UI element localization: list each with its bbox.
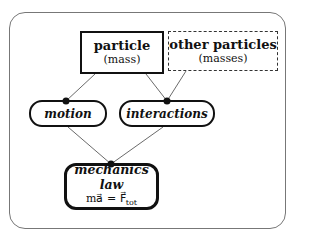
other-particles-node: other particles (masses) [168, 31, 278, 71]
mechanics-law-formula: ma⃗ = F⃗tot [86, 192, 137, 210]
particle-title: particle [94, 38, 150, 53]
mechanics-law-title: mechanics law [67, 162, 156, 192]
interactions-node: interactions [119, 100, 215, 127]
other-particles-title: other particles [169, 37, 277, 52]
mechanics-law-node: mechanics law ma⃗ = F⃗tot [64, 163, 159, 210]
motion-node: motion [29, 100, 107, 127]
interactions-title: interactions [126, 107, 207, 121]
other-particles-subtitle: (masses) [198, 52, 247, 66]
motion-title: motion [44, 107, 92, 121]
formula-subscript: tot [126, 199, 137, 208]
particle-node: particle (mass) [80, 31, 164, 74]
formula-main: ma⃗ = F⃗ [86, 192, 126, 205]
particle-subtitle: (mass) [104, 53, 141, 67]
